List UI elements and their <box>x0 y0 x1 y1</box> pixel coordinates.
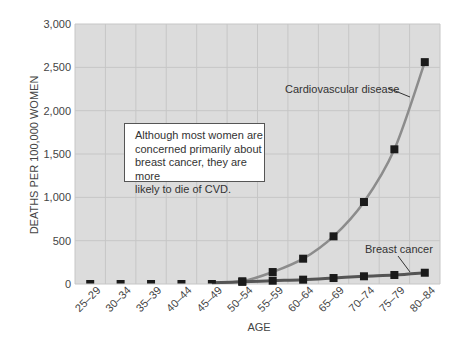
data-marker <box>330 274 338 282</box>
data-marker <box>208 280 216 284</box>
data-marker <box>117 280 125 284</box>
y-tick-label: 500 <box>53 235 71 247</box>
x-axis-title: AGE <box>247 321 270 333</box>
y-tick-label: 2,500 <box>43 61 71 73</box>
x-tick-label: 65–69 <box>316 284 346 314</box>
data-marker <box>299 255 307 263</box>
data-marker <box>360 272 368 280</box>
x-tick-label: 45–49 <box>194 284 224 314</box>
y-axis-title: DEATHS PER 100,000 WOMEN <box>28 76 40 235</box>
x-tick-label: 35–39 <box>133 284 163 314</box>
annotation-line: concerned primarily about <box>135 143 264 157</box>
y-tick-label: 1,500 <box>43 148 71 160</box>
data-marker <box>86 280 94 284</box>
data-marker <box>269 277 277 285</box>
y-axis-ticks: 05001,0001,5002,0002,5003,000 <box>43 18 71 290</box>
data-marker <box>269 268 277 276</box>
annotation-line: Although most women are <box>135 129 264 143</box>
x-tick-label: 60–64 <box>285 284 315 314</box>
data-marker <box>360 198 368 206</box>
data-marker <box>390 145 398 153</box>
x-tick-label: 25–29 <box>73 284 103 314</box>
breast-series-label: Breast cancer <box>365 243 433 255</box>
annotation-line: breast cancer, they are more <box>135 156 264 183</box>
annotation-box: Although most women are concerned primar… <box>124 123 265 182</box>
x-axis-ticks: 25–2930–3435–3940–4445–4950–5455–5960–64… <box>73 284 438 314</box>
x-tick-label: 50–54 <box>225 284 255 314</box>
y-tick-label: 1,000 <box>43 191 71 203</box>
data-marker <box>390 271 398 279</box>
data-marker <box>238 278 246 286</box>
cvd-series-label: Cardiovascular disease <box>285 83 399 95</box>
x-tick-label: 55–59 <box>255 284 285 314</box>
data-marker <box>147 280 155 284</box>
y-tick-label: 2,000 <box>43 105 71 117</box>
y-tick-label: 0 <box>65 278 71 290</box>
x-tick-label: 30–34 <box>103 284 133 314</box>
data-marker <box>421 269 429 277</box>
y-tick-label: 3,000 <box>43 18 71 30</box>
x-tick-label: 40–44 <box>164 284 194 314</box>
x-tick-label: 80–84 <box>407 284 437 314</box>
data-marker <box>299 276 307 284</box>
data-marker <box>330 232 338 240</box>
x-tick-label: 70–74 <box>346 284 376 314</box>
annotation-line: likely to die of CVD. <box>135 183 264 197</box>
data-marker <box>421 58 429 66</box>
x-tick-label: 75–79 <box>377 284 407 314</box>
data-marker <box>177 280 185 284</box>
